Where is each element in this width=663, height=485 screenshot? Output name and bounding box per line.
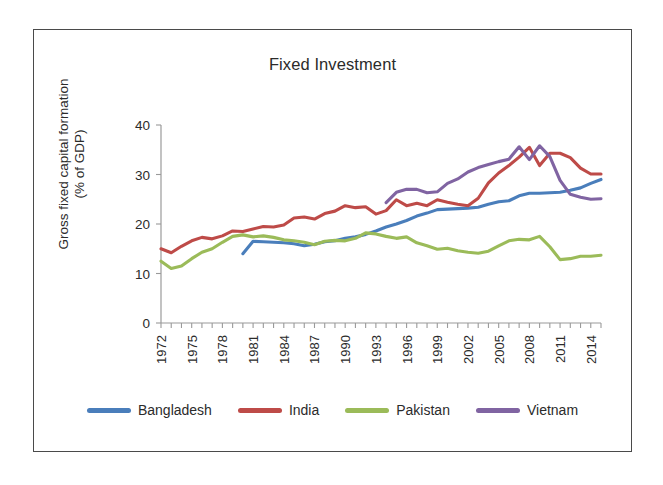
x-tick-label: 2014 — [584, 335, 599, 364]
x-tick-label: 1999 — [430, 335, 445, 364]
x-tick-label: 1972 — [154, 335, 169, 364]
x-tick-label: 2005 — [492, 335, 507, 364]
legend-swatch-vietnam — [476, 408, 520, 413]
x-tick-label: 1975 — [185, 335, 200, 364]
legend-item-vietnam[interactable]: Vietnam — [476, 402, 578, 418]
y-tick-label: 20 — [135, 217, 150, 232]
x-tick-labels: 1972197519781981198419871990199319961999… — [154, 335, 599, 364]
x-tick-label: 2002 — [461, 335, 476, 364]
x-tick-label: 2011 — [553, 335, 568, 363]
y-tick-label: 0 — [142, 316, 150, 331]
x-tick-label: 1996 — [400, 335, 415, 364]
y-tick-labels: 010203040 — [135, 118, 150, 331]
x-tick-label: 1981 — [246, 335, 261, 364]
legend-label: Pakistan — [396, 402, 450, 418]
legend-swatch-pakistan — [345, 408, 389, 413]
x-tick-label: 1978 — [215, 335, 230, 364]
series-line-pakistan — [161, 233, 601, 269]
plot-area: 010203040 197219751978198119841987199019… — [34, 30, 633, 453]
x-tick-label: 1987 — [307, 335, 322, 364]
legend-swatch-india — [238, 408, 282, 413]
data-series — [161, 146, 601, 269]
chart-figure: Fixed Investment Gross fixed capital for… — [33, 29, 632, 452]
legend-swatch-bangladesh — [87, 408, 131, 413]
legend-item-india[interactable]: India — [238, 402, 319, 418]
legend-label: Bangladesh — [138, 402, 212, 418]
legend-item-pakistan[interactable]: Pakistan — [345, 402, 450, 418]
x-tick-label: 1990 — [338, 335, 353, 364]
x-tick-label: 2008 — [522, 335, 537, 364]
legend-label: Vietnam — [527, 402, 578, 418]
y-tick-label: 40 — [135, 118, 150, 133]
x-tick-label: 1993 — [369, 335, 384, 364]
legend-item-bangladesh[interactable]: Bangladesh — [87, 402, 212, 418]
legend-label: India — [289, 402, 319, 418]
x-tick-label: 1984 — [277, 335, 292, 364]
chart-legend: BangladeshIndiaPakistanVietnam — [34, 402, 631, 418]
y-tick-label: 30 — [135, 168, 150, 183]
series-line-vietnam — [386, 146, 601, 203]
y-tick-label: 10 — [135, 267, 150, 282]
